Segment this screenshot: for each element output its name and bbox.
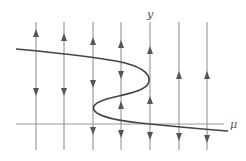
mu-axis-label: μ [230, 118, 237, 131]
arrow-up-icon [118, 40, 124, 48]
arrow-up-icon [90, 37, 96, 45]
bifurcation-diagram: y μ [0, 0, 246, 161]
arrow-down-icon [90, 80, 96, 88]
arrow-up-icon [204, 71, 210, 79]
arrow-down-icon [90, 127, 96, 135]
arrow-up-icon [33, 29, 39, 37]
arrow-down-icon [61, 88, 67, 96]
equilibrium-curve [16, 49, 228, 131]
arrow-down-icon [33, 88, 39, 96]
arrow-down-icon [118, 130, 124, 138]
arrow-up-icon [61, 33, 67, 41]
arrow-down-icon [118, 71, 124, 79]
arrow-down-icon [147, 132, 153, 140]
arrow-up-icon [147, 96, 153, 104]
arrow-down-icon [176, 133, 182, 141]
arrow-up-icon [147, 46, 153, 54]
y-axis-label: y [146, 8, 154, 21]
arrow-up-icon [176, 71, 182, 79]
arrow-down-icon [204, 135, 210, 143]
arrow-up-icon [118, 101, 124, 109]
